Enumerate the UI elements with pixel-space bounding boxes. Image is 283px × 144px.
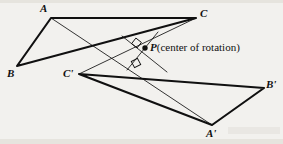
vertex-label-b: B (7, 68, 14, 79)
vertex-label-c: C (200, 8, 207, 19)
center-of-rotation-label: P(center of rotation) (150, 42, 240, 53)
segment-a-to-a-prime (51, 18, 212, 125)
vertex-label-a-prime: A' (206, 128, 216, 139)
center-point-name: P (150, 41, 157, 53)
triangle-a-prime-b-prime-c-prime (79, 74, 264, 125)
vertex-label-b-prime: B' (266, 79, 276, 90)
center-point-description: (center of rotation) (157, 41, 240, 53)
center-point-p-dot (142, 45, 147, 50)
vertex-label-c-prime: C' (63, 68, 73, 79)
geometry-figure: A B C C' B' A' P(center of rotation) (0, 0, 283, 144)
figure-canvas (0, 0, 283, 144)
vertex-label-a: A (40, 3, 47, 14)
